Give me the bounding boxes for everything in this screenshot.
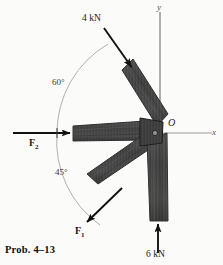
arrow-f1 <box>87 188 122 222</box>
label-f2-subscript: 2 <box>35 143 39 151</box>
label-angle-60: 60° <box>52 78 65 87</box>
label-f2: F2 <box>29 138 39 151</box>
pin-icon <box>152 130 157 135</box>
arc-60 <box>57 44 108 133</box>
label-6kn: 6 kN <box>146 250 165 260</box>
label-origin: O <box>168 118 175 128</box>
member-upper-inclined <box>122 59 168 126</box>
label-4kn: 4 kN <box>82 14 101 24</box>
member-vertical <box>147 133 168 221</box>
label-y-axis: y <box>157 3 161 12</box>
arrow-4kn <box>104 28 132 67</box>
label-x-axis: x <box>212 128 216 137</box>
label-angle-45: 45° <box>55 168 68 177</box>
label-f1: F1 <box>75 226 85 239</box>
statics-free-body-diagram <box>0 0 223 265</box>
member-horizontal <box>73 121 146 141</box>
label-f1-subscript: 1 <box>81 231 85 239</box>
pin-connection-plate <box>140 118 163 146</box>
figure-caption: Prob. 4–13 <box>5 244 55 255</box>
